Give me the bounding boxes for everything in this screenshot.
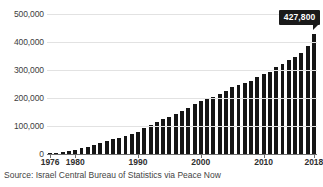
bar[interactable] bbox=[149, 125, 153, 154]
bar[interactable] bbox=[299, 53, 303, 154]
x-axis-tick-label: 2018 bbox=[304, 158, 323, 167]
bar-series bbox=[47, 14, 317, 154]
bar[interactable] bbox=[124, 136, 128, 154]
bar[interactable] bbox=[111, 139, 115, 154]
callout-tail-icon bbox=[313, 25, 318, 30]
chart-container: 197619801990200020102018 Source: Israel … bbox=[0, 0, 323, 187]
bar[interactable] bbox=[142, 128, 146, 154]
bar[interactable] bbox=[287, 60, 291, 154]
x-axis-tick-label: 1980 bbox=[66, 158, 85, 167]
bar[interactable] bbox=[274, 67, 278, 154]
bar[interactable] bbox=[255, 77, 259, 154]
bar[interactable] bbox=[86, 147, 90, 154]
bar[interactable] bbox=[268, 72, 272, 154]
bar[interactable] bbox=[199, 101, 203, 154]
y-axis-tick-label: 200,000 bbox=[0, 94, 44, 103]
bar[interactable] bbox=[180, 111, 184, 154]
gridline bbox=[47, 14, 317, 15]
bar[interactable] bbox=[174, 114, 178, 154]
gridline bbox=[47, 70, 317, 71]
bar[interactable] bbox=[117, 138, 121, 154]
bar[interactable] bbox=[293, 57, 297, 154]
x-axis-tick-label: 1990 bbox=[129, 158, 148, 167]
x-axis-tick-label: 2000 bbox=[191, 158, 210, 167]
gridline bbox=[47, 42, 317, 43]
bar[interactable] bbox=[136, 132, 140, 154]
last-value-callout: 427,800 bbox=[279, 10, 320, 25]
source-note: Source: Israel Central Bureau of Statist… bbox=[4, 170, 221, 180]
bar[interactable] bbox=[105, 141, 109, 154]
bar[interactable] bbox=[306, 46, 310, 154]
bar[interactable] bbox=[92, 145, 96, 154]
y-axis-tick-label: 500,000 bbox=[0, 10, 44, 19]
bar[interactable] bbox=[98, 143, 102, 154]
gridline bbox=[47, 126, 317, 127]
y-axis-tick-label: 300,000 bbox=[0, 66, 44, 75]
plot-area bbox=[47, 14, 317, 154]
bar[interactable] bbox=[262, 74, 266, 154]
bar[interactable] bbox=[167, 117, 171, 154]
bar[interactable] bbox=[130, 134, 134, 154]
bar[interactable] bbox=[237, 85, 241, 154]
bar[interactable] bbox=[224, 91, 228, 154]
bar[interactable] bbox=[193, 104, 197, 154]
x-axis-tick-label: 2010 bbox=[254, 158, 273, 167]
bar[interactable] bbox=[218, 94, 222, 154]
bar[interactable] bbox=[249, 81, 253, 154]
bar[interactable] bbox=[312, 34, 316, 154]
y-axis-tick-label: 0 bbox=[0, 150, 44, 159]
y-axis-tick-label: 100,000 bbox=[0, 122, 44, 131]
bar[interactable] bbox=[161, 119, 165, 154]
bar[interactable] bbox=[243, 83, 247, 154]
x-axis-tick-label: 1976 bbox=[41, 158, 60, 167]
bar[interactable] bbox=[281, 64, 285, 154]
gridline bbox=[47, 98, 317, 99]
bar[interactable] bbox=[186, 108, 190, 154]
y-axis-tick-label: 400,000 bbox=[0, 38, 44, 47]
